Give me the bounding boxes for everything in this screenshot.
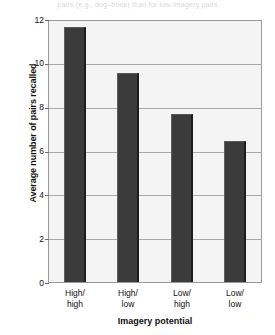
y-tick-label: 0 — [14, 279, 44, 288]
x-tick-label: Low/high — [156, 288, 208, 310]
y-tick-label: 12 — [14, 16, 44, 25]
bar — [224, 141, 246, 282]
x-tick-label: Low/low — [209, 288, 261, 310]
y-tick-mark — [45, 283, 49, 284]
x-tick-label-line: Low/ — [156, 288, 208, 299]
x-tick-label-line: low — [209, 299, 261, 310]
bar — [171, 114, 193, 282]
y-tick-mark — [45, 108, 49, 109]
x-tick-label: High/low — [102, 288, 154, 310]
y-tick-mark — [45, 152, 49, 153]
y-tick-mark — [45, 239, 49, 240]
bar — [117, 73, 139, 282]
bar — [64, 27, 86, 282]
y-tick-mark — [45, 20, 49, 21]
y-axis-title: Average number of pairs recalled — [28, 38, 38, 228]
x-tick-label: High/high — [49, 288, 101, 310]
x-axis-title: Imagery potential — [48, 316, 262, 326]
bar-chart: 024681012 High/highHigh/lowLow/highLow/l… — [0, 0, 275, 335]
x-tick-label-line: low — [102, 299, 154, 310]
x-tick-label-line: High/ — [49, 288, 101, 299]
y-tick-label: 2 — [14, 235, 44, 244]
x-tick-label-line: high — [156, 299, 208, 310]
x-tick-label-line: High/ — [102, 288, 154, 299]
y-tick-mark — [45, 64, 49, 65]
y-tick-mark — [45, 195, 49, 196]
x-tick-label-line: Low/ — [209, 288, 261, 299]
x-tick-label-line: high — [49, 299, 101, 310]
